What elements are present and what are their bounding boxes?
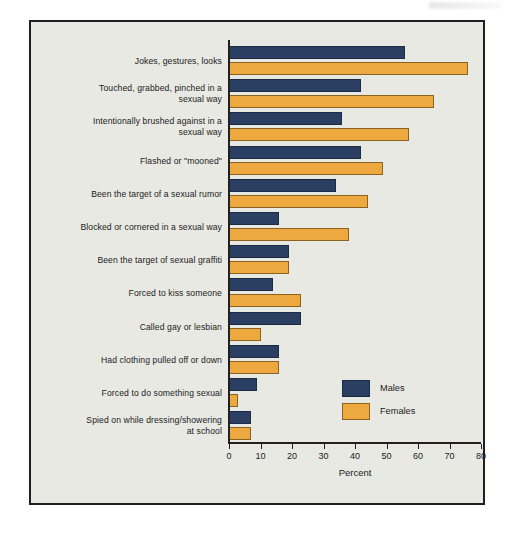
bar-males [229,378,257,391]
chart-row: Called gay or lesbian [31,310,483,346]
x-axis-tick [355,444,356,449]
category-label: Had clothing pulled off or down [37,355,222,366]
category-label: Forced to kiss someone [37,288,222,299]
category-label: Been the target of sexual graffiti [37,255,222,266]
bar-group [229,343,483,379]
bar-group [229,44,483,80]
legend-label: Males [380,383,405,393]
x-axis-tick [387,444,388,449]
scan-artifact [429,2,501,9]
bar-females [229,162,383,175]
bar-females [229,62,468,75]
bar-females [229,228,349,241]
category-label: Flashed or "mooned" [37,156,222,167]
chart-row: Had clothing pulled off or down [31,343,483,379]
chart-row: Flashed or "mooned" [31,144,483,180]
x-axis-title: Percent [229,467,481,478]
x-axis-tick [450,444,451,449]
legend-label: Females [380,406,415,416]
bar-group [229,144,483,180]
x-axis-tick-label: 30 [318,451,328,461]
bar-males [229,179,336,192]
x-axis-tick [418,444,419,449]
x-axis-tick [261,444,262,449]
plot-area: Jokes, gestures, looksTouched, grabbed, … [31,22,483,503]
x-axis-tick-label: 50 [381,451,391,461]
chart-row: Been the target of a sexual rumor [31,177,483,213]
bar-females [229,128,409,141]
category-label: Called gay or lesbian [37,322,222,333]
x-axis-tick-label: 40 [350,451,360,461]
bar-males [229,212,279,225]
bar-males [229,46,405,59]
category-label: Jokes, gestures, looks [37,56,222,67]
bar-females [229,294,301,307]
x-axis-tick [324,444,325,449]
x-axis-tick-label: 70 [444,451,454,461]
category-label: Forced to do something sexual [37,388,222,399]
x-axis-tick-label: 80 [476,451,486,461]
chart-row: Blocked or cornered in a sexual way [31,210,483,246]
bar-group [229,210,483,246]
y-axis-line [228,40,230,444]
bar-females [229,95,434,108]
bar-females [229,328,261,341]
chart-row: Forced to kiss someone [31,276,483,312]
category-label: Touched, grabbed, pinched in asexual way [37,83,222,104]
chart-row: Been the target of sexual graffiti [31,243,483,279]
x-axis-tick [481,444,482,449]
bar-group [229,177,483,213]
legend-swatch [342,380,370,397]
bar-group [229,276,483,312]
chart-row: Intentionally brushed against in asexual… [31,110,483,146]
category-label: Been the target of a sexual rumor [37,189,222,200]
bar-males [229,345,279,358]
bar-males [229,245,289,258]
x-axis-tick [292,444,293,449]
bar-group [229,243,483,279]
bar-females [229,394,238,407]
bar-group [229,110,483,146]
bar-males [229,278,273,291]
bar-males [229,146,361,159]
bar-males [229,112,342,125]
category-label: Intentionally brushed against in asexual… [37,116,222,137]
category-label: Blocked or cornered in a sexual way [37,222,222,233]
x-axis-tick-label: 0 [226,451,231,461]
bar-females [229,361,279,374]
bar-females [229,261,289,274]
legend-swatch [342,403,370,420]
x-axis-tick-label: 20 [287,451,297,461]
bar-group [229,310,483,346]
x-axis-tick-label: 10 [255,451,265,461]
bar-males [229,312,301,325]
bar-males [229,79,361,92]
x-axis-tick [229,444,230,449]
chart-frame: Jokes, gestures, looksTouched, grabbed, … [29,20,485,505]
bar-females [229,427,251,440]
chart-row: Touched, grabbed, pinched in asexual way [31,77,483,113]
bar-males [229,411,251,424]
x-axis-tick-label: 60 [413,451,423,461]
bar-group [229,77,483,113]
chart-row: Jokes, gestures, looks [31,44,483,80]
bar-females [229,195,368,208]
category-label: Spied on while dressing/showeringat scho… [37,415,222,436]
